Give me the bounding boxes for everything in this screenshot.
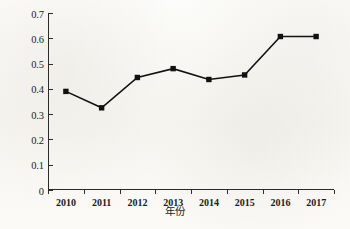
data-point-marker — [242, 72, 247, 77]
data-point-marker — [99, 105, 104, 110]
chart-figure: 00.10.20.30.40.50.60.7 20102011201220132… — [0, 0, 350, 229]
plot-area: 00.10.20.30.40.50.60.7 20102011201220132… — [48, 13, 334, 189]
x-axis-tick — [120, 190, 121, 194]
data-point-marker — [206, 77, 211, 82]
data-series — [48, 13, 334, 190]
data-point-marker — [170, 66, 175, 71]
y-axis-tick-label: 0.7 — [31, 8, 44, 19]
y-axis-tick-label: 0.1 — [31, 160, 44, 171]
y-axis-tick-label: 0.3 — [31, 109, 44, 120]
data-point-marker — [313, 34, 318, 39]
x-axis-tick — [48, 190, 49, 194]
series-markers — [63, 34, 319, 111]
data-point-marker — [63, 89, 68, 94]
y-axis-tick-label: 0.4 — [31, 84, 44, 95]
x-axis-tick — [191, 190, 192, 194]
series-line-ecological-carrying-capacity — [66, 37, 316, 108]
x-axis-tick — [227, 190, 228, 194]
x-axis-tick — [155, 190, 156, 194]
y-axis-tick-label: 0.5 — [31, 59, 44, 70]
data-point-marker — [135, 75, 140, 80]
y-axis-tick-label: 0 — [39, 185, 44, 196]
x-axis-title: 年份 — [0, 203, 350, 218]
y-axis-tick-label: 0.6 — [31, 33, 44, 44]
y-axis-tick-label: 0.2 — [31, 134, 44, 145]
x-axis-tick — [263, 190, 264, 194]
x-axis-tick — [298, 190, 299, 194]
data-point-marker — [278, 34, 283, 39]
y-axis-tick: 0 — [49, 190, 53, 191]
x-axis-tick — [84, 190, 85, 194]
x-axis-tick — [334, 190, 335, 194]
